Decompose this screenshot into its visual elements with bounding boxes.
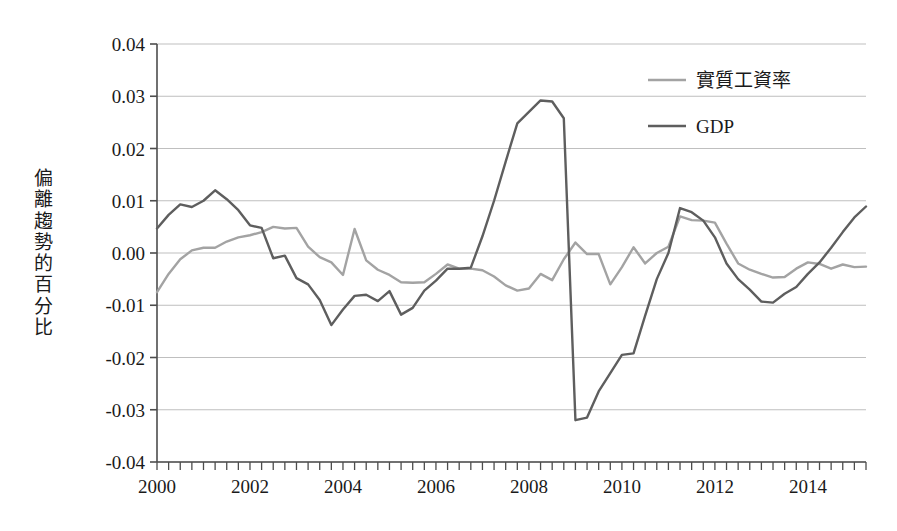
y-tick-label: -0.01 [105,295,145,316]
y-tick-label: 0.00 [112,243,145,264]
x-tick-label: 2008 [510,476,548,497]
series-line-real-wage-rate [157,216,866,292]
x-tick-label: 2002 [231,476,269,497]
x-tick-label: 2000 [138,476,176,497]
y-tick-label: -0.04 [105,452,145,473]
x-tick-label: 2012 [696,476,734,497]
gridlines [157,44,866,462]
legend-label: 實質工資率 [696,70,791,91]
y-tick-label: 0.01 [112,191,145,212]
y-tick-label: -0.02 [105,348,145,369]
legend-label: GDP [696,116,734,137]
x-tick-label: 2014 [789,476,828,497]
y-tick-label: 0.03 [112,86,145,107]
chart-figure: 偏離趨勢的百分比 0.040.030.020.010.00-0.01-0.02-… [0,0,897,531]
y-tick-label: -0.03 [105,400,145,421]
y-tick-label: 0.02 [112,139,145,160]
x-tick-label: 2004 [324,476,363,497]
x-tick-label: 2006 [417,476,455,497]
x-tick-label: 2010 [603,476,641,497]
y-axis [150,44,157,462]
x-axis [157,462,866,470]
line-chart: 0.040.030.020.010.00-0.01-0.02-0.03-0.04… [0,0,897,531]
y-tick-label: 0.04 [112,34,146,55]
x-tick-labels: 20002002200420062008201020122014 [138,476,827,497]
y-tick-labels: 0.040.030.020.010.00-0.01-0.02-0.03-0.04 [105,34,145,473]
chart-legend: 實質工資率GDP [648,70,791,137]
